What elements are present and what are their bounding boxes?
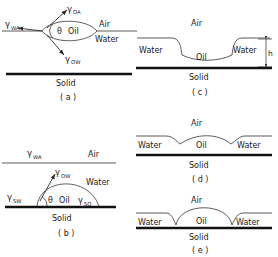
panel-a-gamma-wa: γ WA — [5, 19, 20, 31]
diagram-svg: θ Oil Air Water γ OA γ OW γ WA Solid ( a… — [0, 0, 278, 257]
panel-a-gamma-ow-symbol: γ — [65, 54, 70, 64]
panel-b-gamma-wa-symbol: γ — [27, 148, 32, 158]
panel-a-gamma-oa-symbol: γ — [67, 4, 72, 14]
panel-c-air-label: Air — [191, 19, 203, 28]
panel-a-vector-gamma-ow — [47, 35, 64, 55]
panel-c-caption: ( c ) — [192, 88, 208, 97]
panel-b-water-label: Water — [86, 178, 110, 187]
panel-a-gamma-ow: γ OW — [65, 54, 81, 65]
panel-e: Air Water Oil Water Solid ( e ) — [136, 196, 272, 255]
panel-b-angle-arc — [42, 197, 47, 206]
panel-d-solid-label: Solid — [189, 161, 209, 170]
panel-b-gamma-sw: γ SW — [7, 192, 22, 204]
panel-a-gamma-wa-symbol: γ — [5, 19, 10, 29]
panel-b-caption: ( b ) — [58, 229, 74, 238]
panel-b-gamma-ow-symbol: γ — [55, 167, 60, 177]
panel-c-height-label: h — [268, 49, 273, 58]
panel-c-water-left-label: Water — [139, 46, 163, 55]
panel-c: Air Water Oil Water h Solid ( c ) — [136, 19, 273, 97]
panel-a-gamma-wa-subscript: WA — [11, 25, 20, 31]
panel-b-gamma-ow: γ OW — [55, 167, 71, 179]
panel-a-caption: ( a ) — [60, 93, 76, 102]
figure-canvas: θ Oil Air Water γ OA γ OW γ WA Solid ( a… — [0, 0, 278, 257]
panel-b-gamma-wa: γ WA — [27, 148, 42, 160]
panel-a-vector-gamma-oa — [47, 10, 67, 28]
panel-c-height-dimension: h — [258, 39, 273, 67]
panel-b-gamma-so-symbol: γ — [78, 195, 83, 205]
panel-b-air-label: Air — [88, 150, 100, 159]
panel-a-gamma-ow-subscript: OW — [71, 59, 81, 65]
panel-c-solid-label: Solid — [189, 73, 209, 82]
panel-b-gamma-so: γ SO — [78, 195, 92, 207]
panel-a-solid-label: Solid — [56, 79, 76, 88]
panel-e-air-label: Air — [191, 196, 203, 205]
panel-e-solid-label: Solid — [189, 233, 209, 242]
panel-a-angle-arc — [50, 24, 53, 38]
panel-b-oil-label: Oil — [59, 196, 70, 205]
panel-d: Air Water Oil Water Solid ( d ) — [136, 119, 272, 184]
panel-a-angle-label: θ — [57, 27, 62, 36]
panel-a-gamma-oa-subscript: OA — [73, 9, 81, 15]
panel-e-oil-label: Oil — [196, 217, 207, 226]
panel-d-air-label: Air — [191, 119, 203, 128]
panel-b: Air γ WA θ Oil Water γ OW γ SW γ SO — [2, 148, 116, 238]
panel-e-caption: ( e ) — [192, 246, 208, 255]
panel-a-oil-label: Oil — [68, 27, 79, 36]
panel-e-water-left-label: Water — [138, 218, 162, 227]
panel-b-gamma-ow-subscript: OW — [61, 173, 71, 179]
panel-a-air-label: Air — [99, 20, 111, 29]
panel-d-water-right-label: Water — [237, 141, 261, 150]
panel-c-water-right-label: Water — [233, 46, 257, 55]
panel-b-gamma-sw-subscript: SW — [13, 198, 22, 204]
panel-b-solid-label: Solid — [52, 214, 72, 223]
panel-a-water-label: Water — [95, 35, 119, 44]
panel-a-gamma-oa: γ OA — [67, 4, 81, 15]
panel-a: θ Oil Air Water γ OA γ OW γ WA Solid ( a… — [2, 4, 137, 102]
panel-b-gamma-wa-subscript: WA — [33, 154, 42, 160]
panel-d-caption: ( d ) — [192, 175, 208, 184]
panel-b-gamma-sw-symbol: γ — [7, 192, 12, 202]
panel-e-water-right-label: Water — [236, 218, 260, 227]
panel-c-oil-label: Oil — [196, 53, 207, 62]
panel-b-angle-label: θ — [48, 196, 53, 205]
panel-d-water-left-label: Water — [138, 141, 162, 150]
panel-d-oil-label: Oil — [196, 141, 207, 150]
